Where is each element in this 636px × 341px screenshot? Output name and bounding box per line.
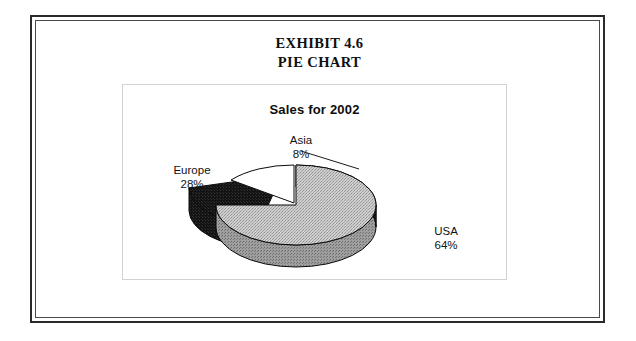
pie-label-asia-name: Asia	[271, 133, 331, 147]
pie-label-asia: Asia 8%	[271, 133, 331, 161]
pie-label-europe-value: 28%	[159, 177, 225, 191]
pie-label-usa-name: USA	[419, 224, 473, 238]
pie-label-usa: USA 64%	[419, 224, 473, 252]
scanned-page: EXHIBIT 4.6 PIE CHART Sales for 2002	[0, 0, 636, 341]
pie-chart-plot-area: Asia 8% Europe 28% USA 64%	[123, 85, 508, 281]
pie-label-europe: Europe 28%	[159, 163, 225, 191]
pie-label-asia-value: 8%	[271, 147, 331, 161]
pie-label-usa-value: 64%	[419, 238, 473, 252]
exhibit-subtitle: PIE CHART	[32, 53, 607, 72]
chart-frame: Sales for 2002	[122, 84, 507, 280]
exhibit-number: EXHIBIT 4.6	[32, 34, 607, 53]
exhibit-heading: EXHIBIT 4.6 PIE CHART	[32, 34, 607, 72]
figure-outer-border: EXHIBIT 4.6 PIE CHART Sales for 2002	[30, 15, 605, 323]
pie-label-europe-name: Europe	[159, 163, 225, 177]
